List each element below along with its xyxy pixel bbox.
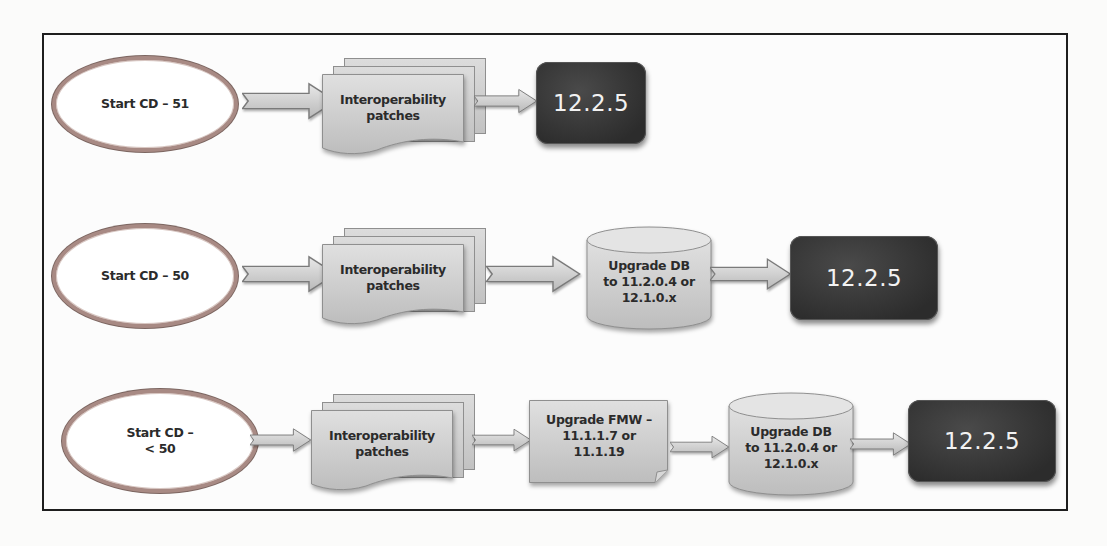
start-node-cd51: Start CD – 51 bbox=[52, 56, 238, 152]
start-node-cd-under-50: Start CD – < 50 bbox=[62, 389, 258, 493]
arrow-icon bbox=[710, 255, 792, 297]
arrow-icon bbox=[850, 425, 912, 467]
step-label: Upgrade DB to 11.2.0.4 or 12.1.0.x bbox=[728, 424, 854, 472]
start-label: Start CD – 50 bbox=[101, 268, 189, 284]
step-label: Interoperability patches bbox=[322, 262, 464, 294]
interoperability-patches-step: Interoperability patches bbox=[322, 58, 488, 154]
target-release-label: 12.2.5 bbox=[553, 90, 629, 116]
step-label: Interoperability patches bbox=[311, 428, 453, 460]
arrow-icon bbox=[250, 421, 312, 463]
step-label: Interoperability patches bbox=[322, 92, 464, 124]
document-page-front: Interoperability patches bbox=[322, 244, 464, 326]
target-release-node: 12.2.5 bbox=[790, 236, 938, 320]
target-release-label: 12.2.5 bbox=[944, 428, 1020, 454]
start-node-cd50: Start CD – 50 bbox=[52, 224, 238, 328]
target-release-label: 12.2.5 bbox=[826, 265, 902, 291]
step-label: Upgrade DB to 11.2.0.4 or 12.1.0.x bbox=[586, 258, 712, 306]
target-release-node: 12.2.5 bbox=[908, 400, 1056, 482]
upgrade-db-step: Upgrade DB to 11.2.0.4 or 12.1.0.x bbox=[586, 226, 712, 330]
interoperability-patches-step: Interoperability patches bbox=[322, 228, 488, 324]
upgrade-fmw-step: Upgrade FMW – 11.1.1.7 or 11.1.19 bbox=[529, 400, 677, 488]
start-label: Start CD – 51 bbox=[101, 96, 189, 112]
arrow-icon bbox=[670, 428, 730, 470]
start-label: Start CD – < 50 bbox=[126, 425, 193, 457]
arrow-icon bbox=[474, 82, 538, 124]
document-page-front: Interoperability patches bbox=[311, 410, 453, 492]
upgrade-db-step: Upgrade DB to 11.2.0.4 or 12.1.0.x bbox=[728, 392, 854, 496]
document-page-front: Interoperability patches bbox=[322, 74, 464, 156]
interoperability-patches-step: Interoperability patches bbox=[311, 394, 477, 490]
target-release-node: 12.2.5 bbox=[536, 62, 646, 144]
step-label: Upgrade FMW – 11.1.1.7 or 11.1.19 bbox=[529, 412, 669, 460]
arrow-icon bbox=[484, 255, 584, 297]
arrow-icon bbox=[472, 421, 532, 463]
